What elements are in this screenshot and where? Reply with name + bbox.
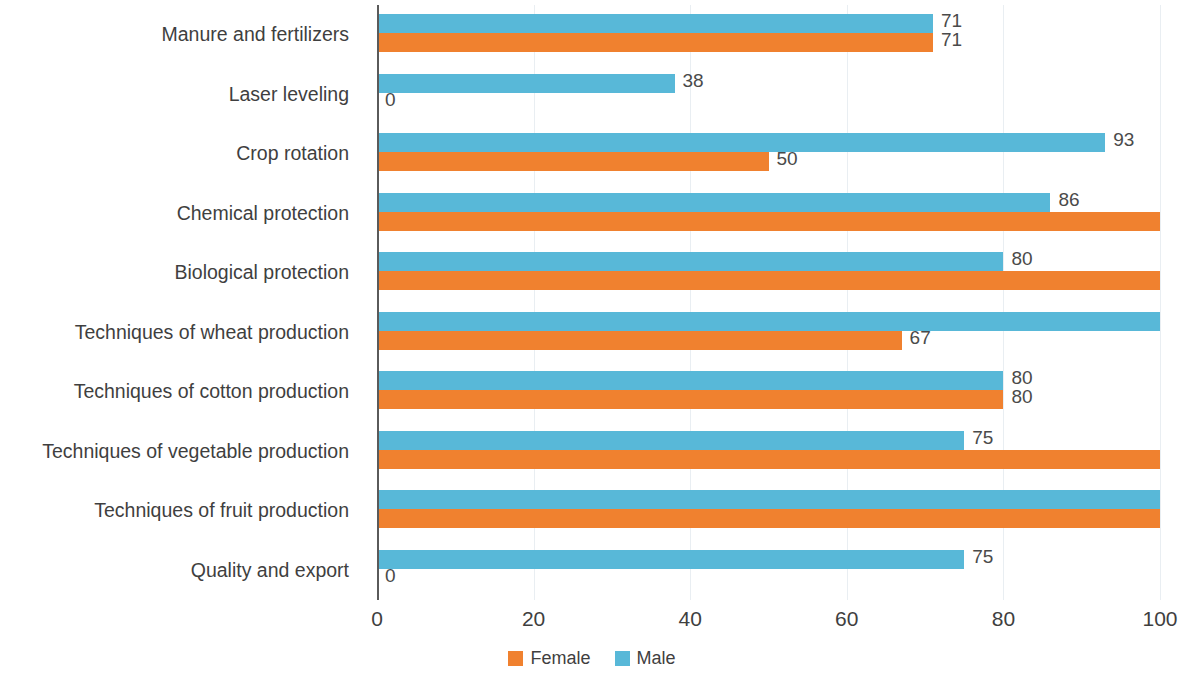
bar-female	[377, 450, 1160, 469]
chart-row: 9350	[377, 124, 1160, 184]
category-label: Chemical protection	[0, 184, 363, 244]
category-label: Techniques of cotton production	[0, 362, 363, 422]
category-label: Biological protection	[0, 243, 363, 303]
bar-male	[377, 252, 1003, 271]
bar-male	[377, 14, 933, 33]
legend-swatch-icon	[508, 651, 523, 666]
bar-male	[377, 312, 1160, 331]
bar-female	[377, 33, 933, 52]
chart-row: 75	[377, 422, 1160, 482]
chart-row	[377, 481, 1160, 541]
bar-value-label: 80	[1011, 248, 1032, 270]
y-axis-line	[377, 5, 379, 600]
bar-value-label: 75	[972, 546, 993, 568]
bar-male	[377, 193, 1050, 212]
plot-area: 71713809350868067808075750	[377, 5, 1160, 600]
chart-row: 67	[377, 303, 1160, 363]
category-label: Manure and fertilizers	[0, 5, 363, 65]
bar-male	[377, 74, 675, 93]
bar-male	[377, 133, 1105, 152]
bar-male	[377, 550, 964, 569]
x-tick-80: 80	[992, 607, 1015, 631]
bar-value-label: 86	[1058, 189, 1079, 211]
legend-swatch-icon	[615, 651, 630, 666]
chart-row: 380	[377, 65, 1160, 125]
gridline-100	[1160, 5, 1161, 600]
bar-value-label: 50	[777, 148, 798, 170]
legend-item-female[interactable]: Female	[508, 648, 590, 669]
x-tick-0: 0	[371, 607, 383, 631]
category-label: Quality and export	[0, 541, 363, 601]
x-tick-40: 40	[679, 607, 702, 631]
legend-item-male[interactable]: Male	[615, 648, 676, 669]
x-tick-20: 20	[522, 607, 545, 631]
bar-male	[377, 490, 1160, 509]
bar-female	[377, 152, 769, 171]
bar-female	[377, 331, 902, 350]
chart-row: 8080	[377, 362, 1160, 422]
bar-female	[377, 212, 1160, 231]
bar-value-label: 67	[910, 327, 931, 349]
category-label: Techniques of vegetable production	[0, 422, 363, 482]
bar-value-label: 93	[1113, 129, 1134, 151]
bar-value-label: 71	[941, 29, 962, 51]
bar-value-label: 38	[683, 70, 704, 92]
chart-row: 86	[377, 184, 1160, 244]
horizontal-bar-chart: 71713809350868067808075750 Manure and fe…	[0, 0, 1184, 677]
bar-value-label: 0	[385, 565, 396, 587]
category-label: Techniques of wheat production	[0, 303, 363, 363]
legend-label: Female	[530, 648, 590, 669]
category-label: Laser leveling	[0, 65, 363, 125]
bar-male	[377, 431, 964, 450]
chart-row: 7171	[377, 5, 1160, 65]
chart-row: 750	[377, 541, 1160, 601]
bar-value-label: 0	[385, 89, 396, 111]
x-tick-100: 100	[1142, 607, 1177, 631]
bar-female	[377, 390, 1003, 409]
category-label: Techniques of fruit production	[0, 481, 363, 541]
bar-female	[377, 271, 1160, 290]
legend-label: Male	[637, 648, 676, 669]
bar-value-label: 75	[972, 427, 993, 449]
chart-row: 80	[377, 243, 1160, 303]
bar-male	[377, 371, 1003, 390]
bar-female	[377, 509, 1160, 528]
category-label: Crop rotation	[0, 124, 363, 184]
bar-value-label: 80	[1011, 386, 1032, 408]
chart-legend: FemaleMale	[0, 648, 1184, 669]
x-tick-60: 60	[835, 607, 858, 631]
